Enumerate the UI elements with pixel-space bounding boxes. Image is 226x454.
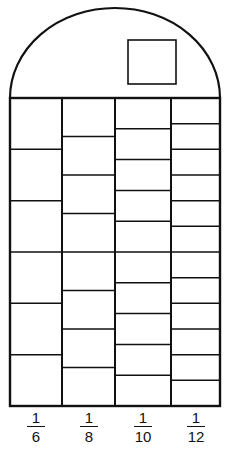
dome-outline [10,8,220,98]
numerator: 1 [181,410,211,426]
label-tenths: 1 10 [128,410,158,444]
numerator: 1 [21,410,51,426]
numerator: 1 [128,410,158,426]
numerator: 1 [74,410,104,426]
label-eighths: 1 8 [74,410,104,444]
denominator: 6 [21,427,51,444]
denominator: 8 [74,427,104,444]
denominator: 10 [128,427,158,444]
fraction-diagram [0,0,226,454]
label-sixths: 1 6 [21,410,51,444]
label-twelfths: 1 12 [181,410,211,444]
denominator: 12 [181,427,211,444]
window-square [128,40,176,84]
